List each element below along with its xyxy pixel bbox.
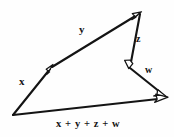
- vector-z-arrowhead: [125, 60, 133, 69]
- vector-resultant-shaft: [13, 99, 158, 115]
- vector-resultant-arrowhead: [155, 94, 168, 102]
- vector-resultant: [13, 94, 168, 115]
- vector-x: [13, 65, 53, 116]
- vector-label-z: z: [136, 34, 140, 44]
- vector-y: [52, 12, 142, 67]
- vector-y-shaft: [52, 15, 137, 67]
- vector-diagram-figure: x y z w x + y + z + w: [0, 0, 174, 137]
- vector-label-y: y: [79, 24, 85, 35]
- vector-label-x: x: [19, 76, 25, 87]
- vector-label-resultant: x + y + z + w: [56, 119, 120, 130]
- vector-label-w: w: [145, 65, 152, 75]
